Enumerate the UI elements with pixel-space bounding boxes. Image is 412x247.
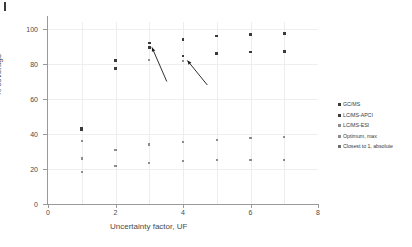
annotation-arrows [0,0,412,247]
annotation-arrow-line [152,47,167,81]
chart-container: 020406080100 02468 % coverage Uncertaint… [0,0,412,247]
annotation-arrow-line [187,61,207,86]
